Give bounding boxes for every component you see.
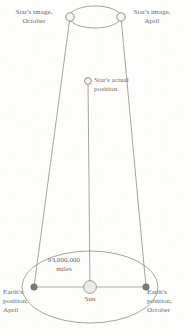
star-image-october-marker bbox=[66, 13, 74, 21]
label-star-image-april: Star's image, April bbox=[124, 8, 180, 26]
sun-marker bbox=[84, 281, 97, 294]
label-star-image-october: Star's image, October bbox=[5, 8, 63, 26]
diagram-canvas bbox=[0, 0, 185, 328]
stellar-parallax-figure: Star's image, October Star's image, Apri… bbox=[0, 0, 185, 328]
celestial-sphere-ellipse bbox=[69, 6, 121, 28]
label-earth-position-october: Earth's position, October bbox=[147, 288, 185, 316]
star-actual-position-marker bbox=[85, 78, 92, 85]
label-earth-position-april: Earth's position, April bbox=[3, 288, 39, 316]
sight-line-october bbox=[121, 17, 146, 287]
label-distance-to-sun: 93,000,000 miles bbox=[38, 256, 90, 274]
sight-line-april bbox=[34, 17, 70, 287]
label-sun: Sun bbox=[78, 295, 102, 304]
label-star-actual-position: Star's actual position bbox=[94, 76, 156, 94]
